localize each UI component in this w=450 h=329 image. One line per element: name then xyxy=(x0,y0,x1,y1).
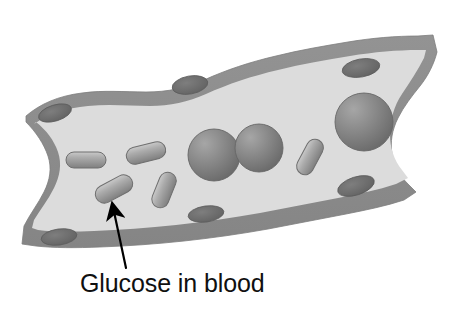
glucose-label: Glucose in blood xyxy=(80,269,265,297)
red-blood-cell-right xyxy=(335,93,393,151)
red-blood-cell-center-right xyxy=(235,124,283,172)
red-blood-cell-center-left xyxy=(188,129,240,181)
glucose-capsule-1 xyxy=(66,152,106,168)
blood-vessel-figure: Glucose in blood xyxy=(0,0,450,329)
